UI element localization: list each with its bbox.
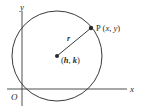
origin-label: O bbox=[11, 92, 18, 102]
point-p bbox=[89, 26, 93, 30]
radius-line bbox=[57, 28, 91, 56]
y-axis-label: y bbox=[19, 2, 24, 12]
center-point bbox=[55, 54, 59, 58]
circle-diagram: y x O r (h, k) P (x, y) bbox=[0, 0, 141, 109]
radius-label: r bbox=[67, 34, 71, 43]
x-axis-label: x bbox=[129, 84, 134, 94]
point-p-label: P (x, y) bbox=[96, 23, 120, 33]
center-label: (h, k) bbox=[61, 55, 80, 65]
